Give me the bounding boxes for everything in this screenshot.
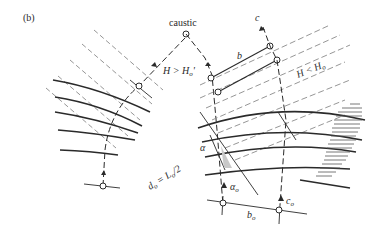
crest-segment-b	[208, 43, 280, 95]
d0-label: do = Lo/2	[145, 163, 183, 194]
arrow-icon	[151, 62, 157, 67]
ray-node	[100, 183, 106, 189]
alpha-label: α	[200, 142, 206, 153]
wave-refraction-diagram: (b) caustic H > Ho'	[0, 0, 383, 238]
arrow-icon	[221, 182, 227, 188]
ray-c	[263, 27, 286, 205]
left-depth-contours	[53, 80, 150, 155]
orthogonal-line	[200, 112, 258, 195]
panel-label: (b)	[23, 12, 35, 24]
arrow-icon	[278, 195, 284, 201]
caustic-label: caustic	[169, 17, 197, 28]
right-depth-contours	[198, 112, 365, 188]
arrow-icon	[205, 62, 211, 66]
h-greater-label: H > Ho'	[162, 65, 196, 78]
b-label: b	[237, 50, 242, 61]
arrow-icon	[101, 170, 106, 175]
alpha0-label: αo	[230, 181, 239, 194]
c0-label: co	[286, 195, 294, 208]
center-ray	[186, 34, 223, 205]
c-label: c	[255, 12, 260, 23]
b0-label: bo	[247, 209, 256, 222]
h-less-label: H < Ho	[294, 58, 328, 82]
ray-node	[136, 83, 142, 89]
right-wave-crests	[200, 25, 350, 160]
